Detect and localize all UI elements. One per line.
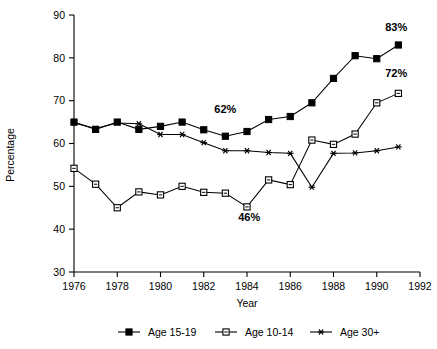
data-point-marker-asterisk — [265, 150, 272, 155]
y-tick-label: 60 — [53, 137, 65, 149]
data-point-marker-asterisk — [157, 132, 164, 137]
data-point-marker-filled-square — [309, 100, 315, 106]
data-point-marker-asterisk — [352, 150, 359, 155]
y-tick-label: 90 — [53, 9, 65, 21]
axis-spine — [74, 15, 420, 272]
data-annotations: 62%46%83%72% — [214, 21, 407, 224]
y-tick-label: 40 — [53, 223, 65, 235]
data-point-marker-filled-square — [179, 119, 185, 125]
data-point-marker-filled-square — [201, 127, 207, 133]
x-tick-label: 1992 — [408, 280, 432, 292]
line-chart-plot: 30405060708090 1976197819801982198419861… — [0, 0, 437, 349]
y-tick-label: 70 — [53, 94, 65, 106]
axes — [74, 15, 420, 272]
data-point-marker-asterisk — [287, 151, 294, 156]
data-point-marker-filled-square — [266, 116, 272, 122]
series-polyline — [74, 123, 398, 187]
legend-item-label: Age 10-14 — [245, 326, 294, 338]
data-point-marker-asterisk — [244, 148, 251, 153]
y-axis-title: Percentage — [4, 128, 16, 182]
series-age-15-19 — [71, 42, 402, 139]
annotation-label: 62% — [214, 103, 236, 115]
x-axis-title: Year — [236, 297, 258, 309]
y-tick-label: 30 — [53, 266, 65, 278]
x-tick-label: 1990 — [365, 280, 389, 292]
x-axis-ticks: 197619781980198219841986198819901992 — [62, 272, 432, 292]
y-tick-label: 50 — [53, 180, 65, 192]
data-point-marker-filled-square — [352, 53, 358, 59]
data-point-marker-filled-square — [157, 123, 163, 129]
annotation-label: 83% — [385, 21, 407, 33]
x-tick-label: 1984 — [235, 280, 259, 292]
data-point-marker-filled-square — [222, 133, 228, 139]
data-point-marker-filled-square — [395, 42, 401, 48]
data-point-marker-asterisk — [200, 140, 207, 145]
legend-item-label: Age 15-19 — [148, 326, 197, 338]
x-tick-label: 1982 — [192, 280, 216, 292]
annotation-label: 72% — [385, 67, 407, 79]
data-point-marker-asterisk — [179, 132, 186, 137]
data-point-marker-asterisk — [136, 121, 143, 126]
data-point-marker-filled-square — [287, 113, 293, 119]
legend-item-age-10-14[interactable]: Age 10-14 — [215, 326, 294, 338]
legend-item-age-15-19[interactable]: Age 15-19 — [118, 326, 197, 338]
data-point-marker-asterisk — [222, 148, 229, 153]
x-tick-label: 1980 — [149, 280, 173, 292]
data-series-group — [71, 42, 402, 211]
legend-item-age-30[interactable]: Age 30+ — [310, 326, 379, 338]
legend-swatch-marker-filled-square — [126, 329, 132, 335]
series-polyline — [74, 45, 398, 136]
legend-swatch-marker-asterisk — [318, 329, 325, 334]
data-point-marker-filled-square — [374, 56, 380, 62]
chart-legend: Age 15-19Age 10-14Age 30+ — [118, 326, 379, 338]
data-point-marker-asterisk — [309, 185, 316, 190]
x-tick-label: 1976 — [62, 280, 86, 292]
data-point-marker-filled-square — [244, 128, 250, 134]
data-point-marker-filled-square — [136, 126, 142, 132]
annotation-label: 46% — [238, 211, 260, 223]
y-tick-label: 80 — [53, 52, 65, 64]
data-point-marker-filled-square — [330, 75, 336, 81]
data-point-marker-asterisk — [373, 148, 380, 153]
x-tick-label: 1986 — [279, 280, 303, 292]
data-point-marker-asterisk — [395, 144, 402, 149]
y-axis-ticks: 30405060708090 — [53, 9, 74, 278]
data-point-marker-asterisk — [330, 151, 337, 156]
x-tick-label: 1988 — [322, 280, 346, 292]
x-tick-label: 1978 — [106, 280, 130, 292]
legend-item-label: Age 30+ — [340, 326, 379, 338]
chart-container: 30405060708090 1976197819801982198419861… — [0, 0, 437, 349]
